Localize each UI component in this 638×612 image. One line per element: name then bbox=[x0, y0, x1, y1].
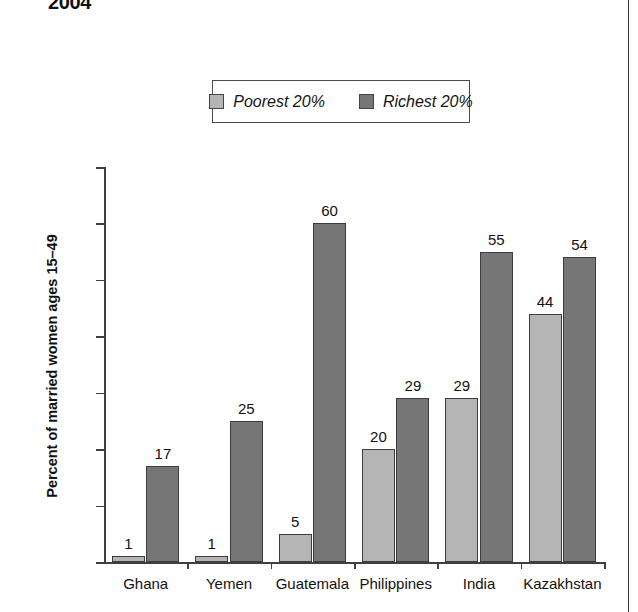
bar-philippines-poorest bbox=[362, 449, 395, 562]
category-label-yemen: Yemen bbox=[206, 575, 252, 592]
bar-value-label: 54 bbox=[551, 236, 608, 253]
y-tick-mark bbox=[96, 280, 104, 282]
y-tick-mark bbox=[96, 336, 104, 338]
x-tick-mark bbox=[354, 562, 356, 569]
bar-value-label: 60 bbox=[301, 202, 358, 219]
bar-india-richest bbox=[480, 252, 513, 562]
plot-area: 0%10%20%30%40%50%60%70% 1171255602029295… bbox=[104, 167, 604, 562]
y-tick-mark bbox=[96, 167, 104, 169]
category-label-india: India bbox=[463, 575, 496, 592]
bar-value-label: 17 bbox=[134, 445, 191, 462]
poorest-swatch-icon bbox=[209, 94, 224, 109]
richest-swatch-icon bbox=[359, 94, 374, 109]
y-tick-mark bbox=[96, 223, 104, 225]
page-border bbox=[628, 0, 629, 612]
bar-philippines-richest bbox=[396, 398, 429, 562]
x-tick-mark bbox=[437, 562, 439, 569]
x-tick-mark bbox=[604, 562, 606, 569]
y-axis-title: Percent of married women ages 15–49 bbox=[44, 166, 60, 566]
legend-label-poorest: Poorest 20% bbox=[233, 93, 325, 111]
bar-india-poorest bbox=[445, 398, 478, 562]
bar-ghana-poorest bbox=[112, 556, 145, 562]
legend-label-richest: Richest 20% bbox=[383, 93, 473, 111]
bar-guatemala-richest bbox=[313, 223, 346, 562]
category-label-ghana: Ghana bbox=[123, 575, 168, 592]
bar-value-label: 25 bbox=[218, 400, 275, 417]
bar-value-label: 55 bbox=[468, 231, 525, 248]
legend-entries: Poorest 20% Richest 20% bbox=[213, 81, 469, 122]
y-tick-mark bbox=[96, 506, 104, 508]
bar-kazakhstan-richest bbox=[563, 257, 596, 562]
bar-guatemala-poorest bbox=[279, 534, 312, 562]
bar-ghana-richest bbox=[146, 466, 179, 562]
legend-entry-richest: Richest 20% bbox=[359, 93, 473, 111]
legend-entry-poorest: Poorest 20% bbox=[209, 93, 325, 111]
category-label-philippines: Philippines bbox=[359, 575, 432, 592]
x-tick-mark bbox=[187, 562, 189, 569]
chart-title: 2004 bbox=[48, 0, 91, 14]
bar-yemen-richest bbox=[230, 421, 263, 562]
bar-kazakhstan-poorest bbox=[529, 314, 562, 562]
category-label-guatemala: Guatemala bbox=[276, 575, 349, 592]
y-tick-mark bbox=[96, 393, 104, 395]
x-tick-mark bbox=[521, 562, 523, 569]
y-axis-line bbox=[104, 167, 106, 562]
x-tick-mark bbox=[271, 562, 273, 569]
y-tick-mark bbox=[96, 562, 104, 564]
category-label-kazakhstan: Kazakhstan bbox=[523, 575, 601, 592]
bar-yemen-poorest bbox=[195, 556, 228, 562]
chart-legend: Poorest 20% Richest 20% bbox=[212, 80, 470, 123]
y-tick-mark bbox=[96, 449, 104, 451]
